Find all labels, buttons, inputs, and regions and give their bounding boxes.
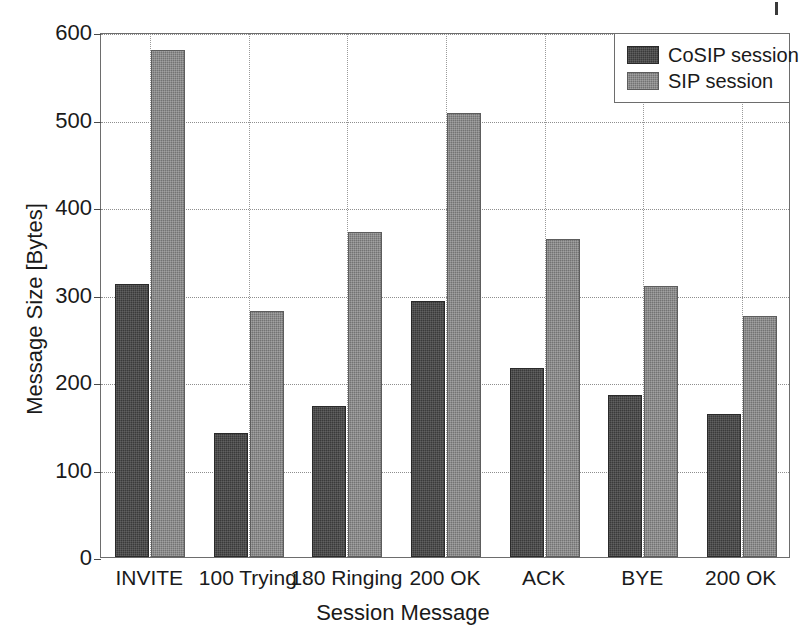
bar-sip (250, 311, 284, 557)
page-scan-artifact (775, 2, 778, 15)
y-tick-mark (94, 384, 101, 385)
bar-sip (151, 50, 185, 558)
bar-sip (644, 286, 678, 557)
y-tick-label: 300 (55, 283, 92, 309)
bar-cosip (115, 284, 149, 557)
bar-sip (348, 232, 382, 558)
x-tick-label: 100 Trying (199, 566, 297, 590)
bar-cosip (214, 433, 248, 557)
cosip-swatch-icon (627, 46, 659, 64)
y-axis-title: Message Size [Bytes] (22, 59, 48, 559)
x-tick-label: BYE (621, 566, 663, 590)
bar-sip (743, 316, 777, 557)
bar-chart-figure: 0100200300400500600 Message Size [Bytes]… (0, 0, 806, 637)
y-tick-label: 600 (55, 20, 92, 46)
x-tick-label: ACK (522, 566, 565, 590)
bar-cosip (411, 301, 445, 557)
y-tick-mark (94, 559, 101, 560)
legend-item-sip: SIP session (627, 68, 781, 94)
legend-label-sip: SIP session (668, 70, 773, 93)
y-tick-label: 100 (55, 458, 92, 484)
y-tick-mark (94, 122, 101, 123)
bar-cosip (312, 406, 346, 557)
x-tick-label: 200 OK (409, 566, 480, 590)
bar-series-layer (101, 34, 789, 557)
chart-legend: CoSIP session SIP session (614, 33, 790, 103)
plot-area (100, 33, 790, 558)
bar-cosip (608, 395, 642, 557)
bar-sip (546, 239, 580, 557)
x-tick-label: INVITE (115, 566, 183, 590)
x-tick-label: 200 OK (705, 566, 776, 590)
sip-swatch-icon (627, 72, 659, 90)
bar-cosip (510, 368, 544, 557)
legend-item-cosip: CoSIP session (627, 42, 781, 68)
y-tick-label: 500 (55, 108, 92, 134)
bar-cosip (707, 414, 741, 557)
y-tick-label: 0 (80, 545, 92, 571)
y-tick-mark (94, 472, 101, 473)
bar-sip (447, 113, 481, 558)
y-tick-mark (94, 297, 101, 298)
y-tick-label: 200 (55, 370, 92, 396)
x-axis-title: Session Message (0, 600, 806, 626)
x-tick-label: 180 Ringing (290, 566, 402, 590)
legend-label-cosip: CoSIP session (668, 44, 799, 67)
y-tick-mark (94, 209, 101, 210)
y-tick-mark (94, 34, 101, 35)
y-tick-label: 400 (55, 195, 92, 221)
